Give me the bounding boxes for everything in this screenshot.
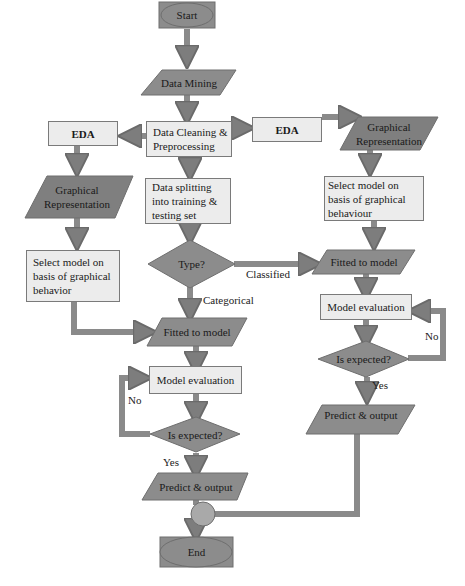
data-mining-label: Data Mining xyxy=(161,76,217,90)
select-model-right-label: Select model on basis of graphical behav… xyxy=(328,178,423,220)
fitted-left-node: Fitted to model xyxy=(150,318,244,346)
eda-left-node: EDA xyxy=(48,121,118,146)
model-evaluation-right-label: Model evaluation xyxy=(327,300,404,314)
end-label: End xyxy=(188,545,206,559)
edge-label-classified: Classified xyxy=(246,268,290,280)
eda-right-node: EDA xyxy=(252,117,322,142)
graphical-representation-right-node: Graphical Representation xyxy=(348,117,430,150)
predict-output-left-node: Predict & output xyxy=(148,473,244,500)
model-evaluation-left-label: Model evaluation xyxy=(157,373,234,387)
graphical-representation-left-node: Graphical Representation xyxy=(38,176,122,218)
fitted-right-label: Fitted to model xyxy=(330,255,397,269)
start-node: Start xyxy=(159,2,215,28)
fitted-left-label: Fitted to model xyxy=(163,325,230,339)
edge-label-no-right: No xyxy=(425,330,438,342)
edge-label-yes-right: Yes xyxy=(372,379,388,391)
is-expected-left-node: Is expected? xyxy=(150,417,240,452)
merge-connector xyxy=(191,502,215,526)
predict-output-left-label: Predict & output xyxy=(159,480,232,494)
data-cleaning-node: Data Cleaning & Preprocessing xyxy=(146,121,232,157)
is-expected-right-label: Is expected? xyxy=(336,352,391,366)
model-evaluation-right-node: Model evaluation xyxy=(320,294,412,320)
type-decision-node: Type? xyxy=(148,240,235,288)
edge-label-no-left: No xyxy=(128,394,141,406)
fitted-right-node: Fitted to model xyxy=(316,250,412,274)
predict-output-right-node: Predict & output xyxy=(312,405,410,425)
data-splitting-label: Data splitting into training & testing s… xyxy=(152,180,230,222)
graphical-representation-right-label: Graphical Representation xyxy=(348,120,430,148)
edge-label-categorical: Categorical xyxy=(203,294,254,306)
select-model-right-node: Select model on basis of graphical behav… xyxy=(324,176,424,221)
select-model-left-node: Select model on basis of graphical behav… xyxy=(26,250,120,302)
end-node: End xyxy=(160,537,233,567)
is-expected-right-node: Is expected? xyxy=(318,341,409,377)
select-model-left-label: Select model on basis of graphical behav… xyxy=(33,255,119,297)
type-decision-label: Type? xyxy=(178,257,205,271)
data-splitting-node: Data splitting into training & testing s… xyxy=(145,178,231,224)
is-expected-left-label: Is expected? xyxy=(168,428,223,442)
data-mining-node: Data Mining xyxy=(146,70,232,95)
eda-right-label: EDA xyxy=(275,123,298,137)
graphical-representation-left-label: Graphical Representation xyxy=(38,183,116,211)
eda-left-label: EDA xyxy=(71,127,94,141)
model-evaluation-left-node: Model evaluation xyxy=(149,366,242,394)
edge-label-yes-left: Yes xyxy=(163,456,179,468)
data-cleaning-label: Data Cleaning & Preprocessing xyxy=(153,125,231,153)
start-label: Start xyxy=(177,8,198,22)
predict-output-right-label: Predict & output xyxy=(324,408,397,422)
